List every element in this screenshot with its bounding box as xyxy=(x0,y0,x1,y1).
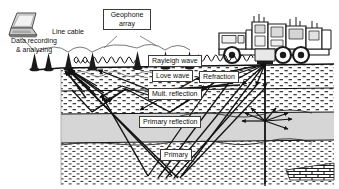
rayleigh-wave-label: Rayleigh wave xyxy=(148,55,202,67)
geophone-icon xyxy=(133,51,143,70)
geophone-array-label: Geophone array xyxy=(103,9,151,30)
mult-reflection-label: Mult. reflection xyxy=(148,88,202,100)
refraction-label: Refraction xyxy=(199,71,239,83)
primary-label: Primary xyxy=(160,149,192,161)
data-recording-line2: & analyzing xyxy=(16,46,52,53)
seismic-survey-diagram: Data recording & analyzing Line cable Ge… xyxy=(0,0,339,189)
geophone-icon xyxy=(30,53,40,71)
geophone-icon xyxy=(64,52,74,71)
vibroseis-truck-icon xyxy=(219,14,331,64)
geophone-icon xyxy=(44,53,54,71)
laptop-icon xyxy=(9,13,37,37)
data-recording-label: Data recording & analyzing xyxy=(1,37,67,54)
geophone-array-line1: Geophone xyxy=(111,11,144,18)
love-wave-label: Love wave xyxy=(152,70,193,82)
primary-reflection-label: Primary reflection xyxy=(139,116,201,128)
geophone-array-line2: array xyxy=(119,20,135,27)
data-recording-line1: Data recording xyxy=(11,37,57,44)
line-cable-label: Line cable xyxy=(52,28,84,37)
